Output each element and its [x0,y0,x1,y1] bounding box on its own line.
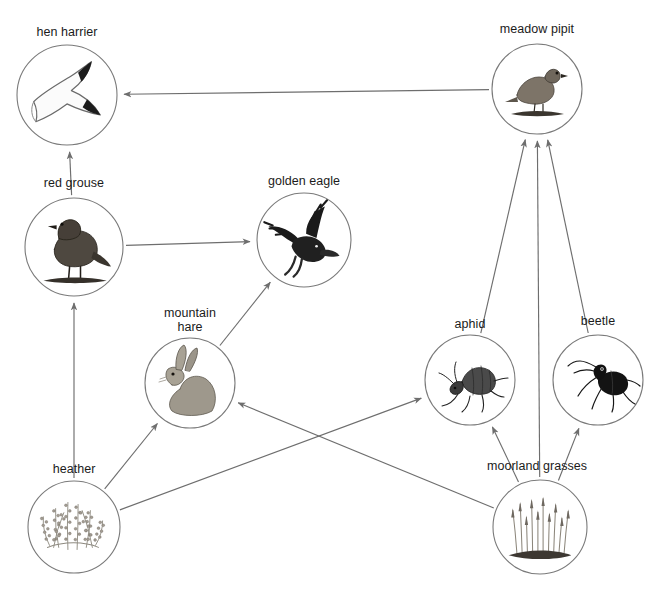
link-beetle-to-meadow-pipit [548,140,589,333]
link-mountain-hare-to-golden-eagle [220,282,270,345]
node-beetle[interactable] [553,335,643,425]
node-hen-harrier[interactable] [17,45,117,145]
node-heather[interactable] [28,481,120,573]
link-meadow-pipit-to-hen-harrier [124,90,489,95]
links-layer [70,90,589,510]
link-moorland-grasses-to-beetle [558,428,579,480]
node-red-grouse[interactable] [25,198,123,296]
food-web-diagram: hen harriermeadow pipitred grousegolden … [0,0,665,597]
link-moorland-grasses-to-meadow-pipit [537,141,539,477]
link-red-grouse-to-hen-harrier [70,152,72,195]
node-mountain-hare[interactable] [145,338,235,428]
link-heather-to-mountain-hare [105,424,158,489]
node-moorland-grasses[interactable] [493,480,587,574]
link-moorland-grasses-to-aphid [492,427,518,482]
link-aphid-to-meadow-pipit [481,140,526,334]
node-golden-eagle[interactable] [257,193,351,287]
link-red-grouse-to-golden-eagle [126,242,250,246]
node-meadow-pipit[interactable] [492,44,582,134]
node-aphid[interactable] [425,335,515,425]
